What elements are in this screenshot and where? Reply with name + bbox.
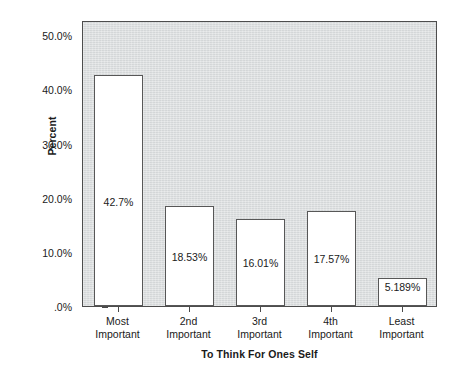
y-axis-tick-label: 20.0% xyxy=(26,194,72,204)
y-axis-tick-label: 40.0% xyxy=(26,85,72,95)
bar[interactable]: 5.189% xyxy=(378,278,427,306)
bar-value-label: 16.01% xyxy=(237,257,284,269)
bar[interactable]: 17.57% xyxy=(307,211,356,306)
x-axis-tick-label-line: Least xyxy=(357,315,447,328)
y-axis-tick-label: 30.0% xyxy=(26,140,72,150)
bar-value-label: 17.57% xyxy=(308,253,355,265)
y-axis-tick-mark xyxy=(102,307,108,308)
bar-value-label: 5.189% xyxy=(379,281,426,293)
bar[interactable]: 16.01% xyxy=(236,219,285,306)
x-axis-tick-mark xyxy=(331,307,332,312)
plot-area: 42.7%18.53%16.01%17.57%5.189% xyxy=(82,21,437,307)
x-axis-tick-label-line: Important xyxy=(357,328,447,341)
x-axis-tick-label: LeastImportant xyxy=(357,315,447,341)
bar[interactable]: 18.53% xyxy=(165,206,214,306)
bar-value-label: 18.53% xyxy=(166,251,213,263)
bar[interactable]: 42.7% xyxy=(94,75,143,306)
x-axis-tick-mark xyxy=(402,307,403,312)
y-axis-tick-labels: 50.0%40.0%30.0%20.0%10.0%.0% xyxy=(26,0,72,376)
bar-chart: Percent 50.0%40.0%30.0%20.0%10.0%.0% 42.… xyxy=(0,0,457,376)
x-axis-tick-mark xyxy=(260,307,261,312)
x-axis-tick-mark xyxy=(189,307,190,312)
y-axis-tick-label: 10.0% xyxy=(26,248,72,258)
x-axis-tick-mark xyxy=(118,307,119,312)
x-axis-title: To Think For Ones Self xyxy=(82,348,437,360)
y-axis-tick-label: 50.0% xyxy=(26,31,72,41)
y-axis-tick-label: .0% xyxy=(26,302,72,312)
bar-value-label: 42.7% xyxy=(95,196,142,208)
